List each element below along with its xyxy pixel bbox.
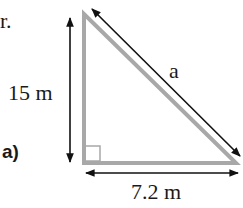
right-triangle-diagram [0, 0, 243, 208]
triangle-shape [84, 14, 236, 163]
hypotenuse-dimension-arrow [92, 9, 240, 156]
right-angle-marker [85, 146, 100, 161]
